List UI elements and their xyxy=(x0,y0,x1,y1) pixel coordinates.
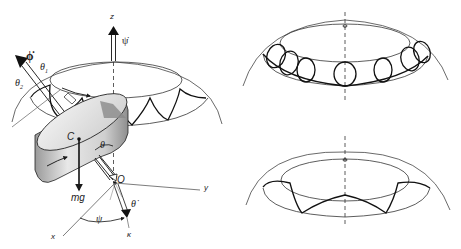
right-bottom-panel xyxy=(246,136,450,226)
center-of-mass-label: C xyxy=(67,132,74,142)
origin-label: O xyxy=(117,175,125,185)
kappa-label: κ xyxy=(127,231,131,239)
psi-dot-label: ψ̇ xyxy=(122,36,128,46)
x-axis-label: x xyxy=(51,233,55,241)
z-axis-arrow xyxy=(108,26,119,61)
x-axis xyxy=(63,183,115,236)
right-top-panel xyxy=(243,12,448,100)
theta2-label: θ2 xyxy=(15,78,23,90)
nutation-loops xyxy=(263,39,433,86)
theta-dot-label: θ̇ xyxy=(131,199,136,209)
theta-label: θ xyxy=(100,140,105,150)
lower-circle-top xyxy=(263,54,428,86)
y-axis xyxy=(115,183,200,190)
gyroscope-diagram xyxy=(0,0,461,249)
y-axis-label: y xyxy=(204,184,208,192)
precession-circle-upper xyxy=(50,62,182,98)
lower-circle-bottom xyxy=(263,188,430,217)
z-axis-label: z xyxy=(110,13,114,21)
phi-dot-label: ϕ̇ xyxy=(26,50,34,62)
left-panel xyxy=(12,26,222,236)
psi-label: ψ xyxy=(96,214,102,224)
weight-label: mg xyxy=(71,193,85,203)
theta1-label: θ1 xyxy=(40,62,48,74)
node-line-arrow xyxy=(114,184,131,228)
